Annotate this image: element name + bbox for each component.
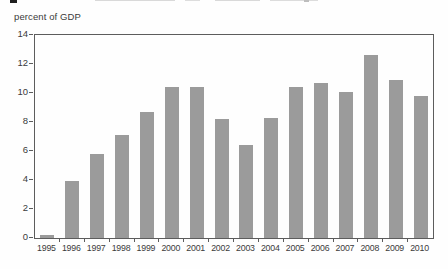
bar-2000 — [165, 87, 179, 238]
x-tick-mark — [283, 238, 284, 242]
figure-root: percent of GDP 0246810121419951996199719… — [0, 0, 448, 269]
bar-1995 — [40, 235, 54, 238]
x-tick-mark — [84, 238, 85, 242]
y-tick-label-0: 0 — [0, 232, 28, 242]
cropped-title-remnant — [270, 0, 318, 1]
x-tick-label-1999: 1999 — [133, 244, 159, 253]
bar-1998 — [115, 135, 129, 238]
cropped-title-remnant — [215, 0, 260, 1]
bar-2003 — [239, 145, 253, 238]
y-tick-label-14: 14 — [0, 29, 28, 39]
bar-1996 — [65, 181, 79, 238]
plot-area — [34, 34, 434, 239]
x-tick-mark — [333, 238, 334, 242]
x-tick-label-2001: 2001 — [183, 244, 209, 253]
bar-2002 — [215, 119, 229, 238]
x-tick-label-2010: 2010 — [407, 244, 433, 253]
y-tick-label-2: 2 — [0, 203, 28, 213]
x-tick-label-2009: 2009 — [382, 244, 408, 253]
x-tick-label-2005: 2005 — [282, 244, 308, 253]
x-tick-mark — [134, 238, 135, 242]
y-tick-label-10: 10 — [0, 87, 28, 97]
x-tick-label-1998: 1998 — [108, 244, 134, 253]
bar-2004 — [264, 118, 278, 238]
y-tick-label-12: 12 — [0, 58, 28, 68]
x-tick-mark — [59, 238, 60, 242]
y-tick-label-4: 4 — [0, 174, 28, 184]
bar-2001 — [190, 87, 204, 238]
bar-1999 — [140, 112, 154, 238]
x-tick-mark — [382, 238, 383, 242]
cropped-title-remnant — [304, 0, 309, 2]
cropped-title-remnant — [185, 0, 200, 1]
x-tick-label-2000: 2000 — [158, 244, 184, 253]
x-tick-mark — [208, 238, 209, 242]
x-tick-label-1997: 1997 — [83, 244, 109, 253]
x-tick-label-1995: 1995 — [33, 244, 59, 253]
y-tick-label-8: 8 — [0, 116, 28, 126]
y-tick-mark — [29, 92, 33, 93]
y-tick-label-6: 6 — [0, 145, 28, 155]
x-tick-mark — [258, 238, 259, 242]
y-tick-mark — [29, 34, 33, 35]
cropped-title-remnant — [10, 0, 17, 3]
y-tick-mark — [29, 63, 33, 64]
x-tick-label-2008: 2008 — [357, 244, 383, 253]
bar-2007 — [339, 92, 353, 238]
bar-2006 — [314, 83, 328, 238]
x-tick-mark — [183, 238, 184, 242]
x-tick-mark — [109, 238, 110, 242]
cropped-title-remnant — [95, 0, 175, 1]
bar-2008 — [364, 55, 378, 238]
bar-2005 — [289, 87, 303, 238]
x-tick-label-2006: 2006 — [307, 244, 333, 253]
bar-1997 — [90, 154, 104, 238]
x-tick-label-2004: 2004 — [257, 244, 283, 253]
x-tick-mark — [357, 238, 358, 242]
y-tick-mark — [29, 179, 33, 180]
x-tick-mark — [308, 238, 309, 242]
y-axis-title: percent of GDP — [14, 11, 81, 22]
bar-2009 — [389, 80, 403, 238]
x-tick-label-2002: 2002 — [208, 244, 234, 253]
x-tick-label-1996: 1996 — [58, 244, 84, 253]
x-tick-mark — [233, 238, 234, 242]
x-tick-mark — [407, 238, 408, 242]
x-tick-label-2007: 2007 — [332, 244, 358, 253]
bar-2010 — [414, 96, 428, 238]
x-tick-label-2003: 2003 — [232, 244, 258, 253]
y-tick-mark — [29, 150, 33, 151]
x-tick-mark — [158, 238, 159, 242]
y-tick-mark — [29, 208, 33, 209]
y-tick-mark — [29, 121, 33, 122]
y-tick-mark — [29, 237, 33, 238]
